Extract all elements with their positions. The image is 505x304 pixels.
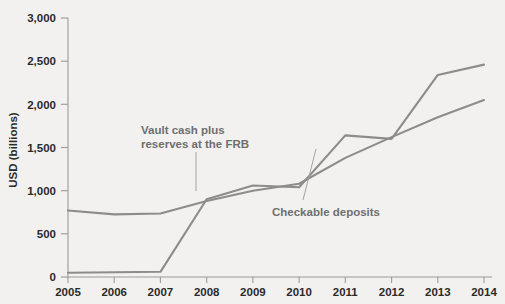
x-tick-label-2006: 2006 bbox=[101, 286, 127, 298]
y-tick-label-0: 0 bbox=[50, 271, 56, 283]
x-tick-label-2009: 2009 bbox=[240, 286, 266, 298]
x-tick-label-2008: 2008 bbox=[194, 286, 220, 298]
x-tick-label-2013: 2013 bbox=[425, 286, 451, 298]
vault-cash-annotation-line2: reserves at the FRB bbox=[141, 138, 249, 150]
checkable-deposits-annotation-line1: Checkable deposits bbox=[272, 206, 380, 218]
x-axis-ticks bbox=[68, 277, 484, 283]
series-line-vault-cash-plus-reserves bbox=[68, 65, 484, 273]
y-tick-label-2000: 2,000 bbox=[27, 99, 56, 111]
checkable-deposits-annotation: Checkable deposits bbox=[272, 206, 380, 218]
y-tick-label-1000: 1,000 bbox=[27, 185, 56, 197]
chart-canvas: 0 500 1,000 1,500 2,000 2,500 3,000 USD … bbox=[0, 0, 505, 304]
x-tick-label-2010: 2010 bbox=[286, 286, 312, 298]
vault-cash-annotation-line1: Vault cash plus bbox=[141, 124, 225, 136]
y-axis-ticks bbox=[61, 18, 68, 277]
x-axis-tick-labels: 2005 2006 2007 2008 2009 2010 2011 2012 … bbox=[55, 286, 497, 298]
x-tick-label-2012: 2012 bbox=[379, 286, 405, 298]
y-tick-label-500: 500 bbox=[37, 228, 56, 240]
series-line-checkable-deposits bbox=[68, 100, 484, 214]
x-tick-label-2007: 2007 bbox=[148, 286, 174, 298]
x-tick-label-2014: 2014 bbox=[471, 286, 497, 298]
y-tick-label-1500: 1,500 bbox=[27, 142, 56, 154]
line-chart: 0 500 1,000 1,500 2,000 2,500 3,000 USD … bbox=[0, 0, 505, 304]
vault-cash-annotation: Vault cash plus reserves at the FRB bbox=[141, 124, 249, 150]
y-axis-title: USD (billions) bbox=[7, 112, 19, 188]
x-tick-label-2011: 2011 bbox=[333, 286, 359, 298]
y-tick-label-2500: 2,500 bbox=[27, 55, 56, 67]
y-axis-tick-labels: 0 500 1,000 1,500 2,000 2,500 3,000 bbox=[27, 12, 56, 283]
x-tick-label-2005: 2005 bbox=[55, 286, 81, 298]
y-tick-label-3000: 3,000 bbox=[27, 12, 56, 24]
